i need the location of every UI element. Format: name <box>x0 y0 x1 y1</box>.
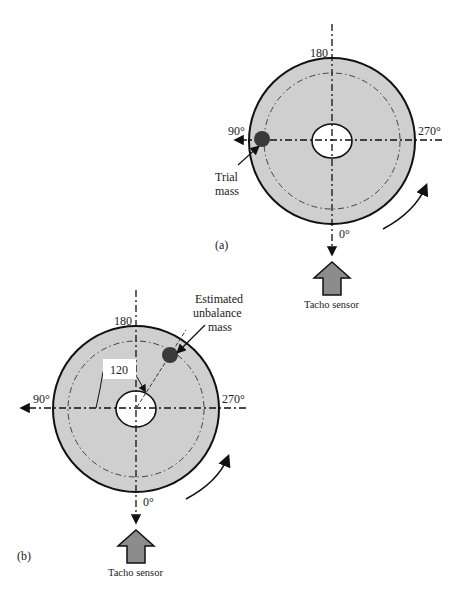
estimated-mass-label-line2: unbalance <box>193 306 242 320</box>
trial-mass <box>254 131 270 147</box>
angle-label-180: 180 <box>114 314 132 328</box>
angle-label-90: 90° <box>33 392 50 406</box>
tacho-sensor-icon <box>118 530 154 563</box>
angle-label-180: 180 <box>310 46 328 60</box>
angle-label-0: 0° <box>339 227 350 241</box>
figure-b: 120 180 90° 270° 0° Estimated unbalance … <box>17 290 246 578</box>
panel-label-a: (a) <box>215 238 228 252</box>
estimated-mass-label-line1: Estimated <box>195 292 243 306</box>
angle-label-90: 90° <box>228 124 245 138</box>
angle-label-270: 270° <box>418 124 441 138</box>
estimated-unbalance-mass <box>162 347 178 363</box>
estimated-mass-label-line3: mass <box>208 320 232 334</box>
panel-label-b: (b) <box>17 549 31 563</box>
trial-mass-label-line1: Trial <box>215 170 239 184</box>
figure-a: 180 90° 270° 0° Trial mass (a) Tacho sen… <box>215 24 442 310</box>
tacho-sensor-label: Tacho sensor <box>304 299 359 310</box>
tacho-sensor-label: Tacho sensor <box>108 567 163 578</box>
tacho-sensor-icon <box>314 262 350 295</box>
angle-label-0: 0° <box>143 495 154 509</box>
balancing-diagram: 180 90° 270° 0° Trial mass (a) Tacho sen… <box>0 0 460 594</box>
angle-value: 120 <box>110 363 128 377</box>
trial-mass-label-line2: mass <box>215 184 239 198</box>
angle-label-270: 270° <box>222 392 245 406</box>
